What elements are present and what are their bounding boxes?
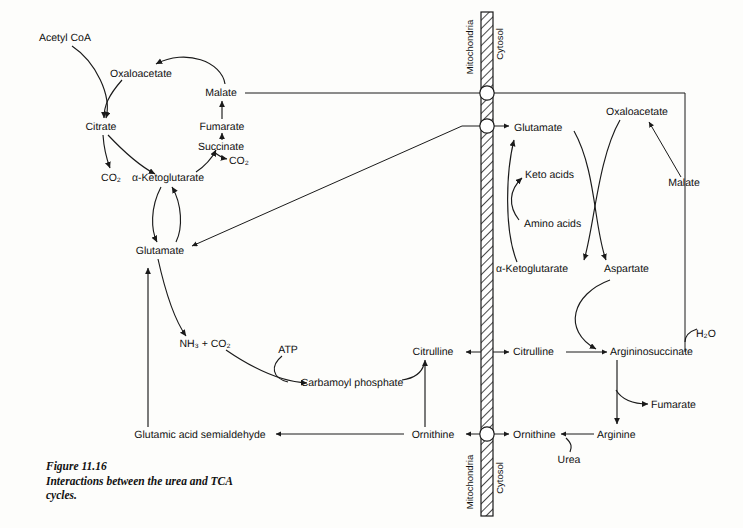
label-h2o: H₂O (696, 328, 716, 340)
label-alpha-ketoglutarate-mito: α-Ketoglutarate (132, 172, 204, 184)
label-citrate: Citrate (86, 121, 117, 133)
figure-caption-line2: cycles. (46, 489, 77, 501)
label-malate-mito: Malate (205, 87, 237, 99)
label-arginine: Arginine (597, 429, 636, 441)
figure-page: Mitochondria Cytosol Mitochondria Cytoso… (0, 0, 743, 528)
ornithine-transporter-icon (480, 427, 494, 441)
label-malate-cytosol: Malate (668, 177, 700, 189)
label-cytosol-bottom: Cytosol (494, 462, 505, 494)
label-keto-acids: Keto acids (525, 169, 574, 181)
cytosol-urea-group (561, 280, 648, 452)
label-fumarate-cytosol: Fumarate (651, 399, 696, 411)
label-glutamate-mito: Glutamate (136, 245, 185, 257)
label-fumarate-mito: Fumarate (200, 121, 245, 133)
label-cytosol-top: Cytosol (494, 28, 505, 60)
ornithine-transport-line (466, 427, 509, 441)
label-carbamoyl-phosphate: Carbamoyl phosphate (301, 377, 404, 389)
cytosol-transamination-group (508, 120, 620, 262)
label-argininosuccinate: Argininosuccinate (610, 346, 693, 358)
label-ornithine-cytosol: Ornithine (513, 429, 556, 441)
figure-caption: Figure 11.16 Interactions between the ur… (46, 459, 346, 503)
label-urea: Urea (558, 454, 581, 466)
malate-to-oxaloacetate-line (649, 122, 681, 177)
figure-number: Figure 11.16 (46, 460, 107, 472)
label-glutamate-cytosol: Glutamate (514, 122, 563, 134)
label-glutamic-acid-semialdehyde: Glutamic acid semialdehyde (134, 429, 265, 441)
glutamate-transporter-icon (480, 119, 494, 133)
label-mitochondria-bottom: Mitochondria (464, 454, 475, 509)
label-atp: ATP (278, 344, 298, 356)
label-co2-succinate: CO₂ (229, 155, 249, 167)
label-citrulline-mito: Citrulline (413, 346, 454, 358)
label-oxaloacetate-mito: Oxaloacetate (110, 68, 172, 80)
label-mitochondria-top: Mitochondria (464, 19, 475, 74)
label-co2-citrate: CO₂ (101, 172, 121, 184)
label-nh3-co2: NH₃ + CO₂ (179, 338, 230, 350)
malate-transporter-icon (480, 86, 494, 100)
label-citrulline-cytosol: Citrulline (513, 346, 554, 358)
glutamate-transport-line (192, 119, 509, 246)
label-amino-acids: Amino acids (524, 218, 581, 230)
label-oxaloacetate-cytosol: Oxaloacetate (606, 106, 668, 118)
label-ornithine-mito: Ornithine (412, 429, 455, 441)
label-succinate: Succinate (198, 141, 244, 153)
label-alpha-ketoglutarate-cytosol: α-Ketoglutarate (496, 263, 568, 275)
figure-caption-line1: Interactions between the urea and TCA (46, 474, 278, 489)
label-acetyl-coa: Acetyl CoA (39, 32, 91, 44)
metabolic-pathway-diagram: Mitochondria Cytosol Mitochondria Cytoso… (0, 0, 743, 528)
label-aspartate: Aspartate (604, 263, 649, 275)
